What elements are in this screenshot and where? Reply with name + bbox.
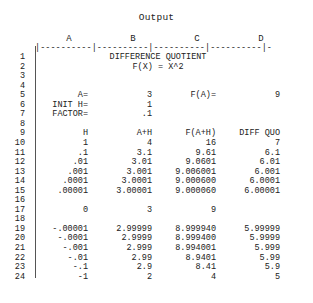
cell-d[interactable]: 6.00001 xyxy=(244,186,280,196)
row-number: 8 xyxy=(20,119,25,129)
row-number: 14 xyxy=(15,176,25,186)
cell-b[interactable]: 3.0001 xyxy=(121,176,152,186)
row-number: 24 xyxy=(15,272,25,282)
cell-c[interactable]: F(A)= xyxy=(190,90,216,100)
cell-d[interactable]: 6.01 xyxy=(260,157,280,167)
cell-b[interactable]: 3.001 xyxy=(126,167,152,177)
row-number: 13 xyxy=(15,167,25,177)
row-number: 22 xyxy=(15,253,25,263)
cell-c[interactable]: 9.0601 xyxy=(185,157,216,167)
cell-b[interactable]: 3.01 xyxy=(132,157,152,167)
cell-c[interactable]: 8.9401 xyxy=(185,253,216,263)
row-number: 19 xyxy=(15,224,25,234)
cell-c[interactable]: 9.000060 xyxy=(175,186,216,196)
table-row: 24-1245 xyxy=(0,272,313,282)
cell-b[interactable]: 2.999 xyxy=(126,243,152,253)
cell-d[interactable]: 5.99999 xyxy=(244,224,280,234)
table-row: 22-.012.998.94015.99 xyxy=(0,253,313,263)
cell-a[interactable]: -.1 xyxy=(73,262,88,272)
cell-b[interactable]: 2.99999 xyxy=(116,224,152,234)
cell-b[interactable]: 2.9 xyxy=(137,262,152,272)
table-row: 11.13.19.616.1 xyxy=(0,148,313,158)
cell-c[interactable]: 16 xyxy=(206,138,216,148)
cell-c[interactable]: 8.999940 xyxy=(175,224,216,234)
table-row: 1014167 xyxy=(0,138,313,148)
table-row: 4 xyxy=(0,81,313,91)
cell-d[interactable]: 7 xyxy=(275,138,280,148)
cell-d[interactable]: DIFF QUO xyxy=(239,128,280,138)
row-number: 20 xyxy=(15,233,25,243)
table-row: 6INIT H=1 xyxy=(0,100,313,110)
cell-d[interactable]: 6.1 xyxy=(265,148,280,158)
cell-a[interactable]: -.001 xyxy=(62,243,88,253)
cell-c[interactable]: 9.000600 xyxy=(175,176,216,186)
cell-c[interactable]: 8.999400 xyxy=(175,233,216,243)
row-number: 17 xyxy=(15,205,25,215)
cell-a[interactable]: .00001 xyxy=(57,186,88,196)
cell-a[interactable]: FACTOR= xyxy=(52,109,88,119)
cell-a[interactable]: .01 xyxy=(73,157,88,167)
row-number: 16 xyxy=(15,195,25,205)
cell-a[interactable]: -.0001 xyxy=(57,233,88,243)
row-number: 23 xyxy=(15,262,25,272)
table-row: 1DIFFERENCE QUOTIENT xyxy=(0,52,313,62)
cell-b[interactable]: 3.1 xyxy=(137,148,152,158)
table-row: 20-.00012.99998.9994005.9999 xyxy=(0,233,313,243)
row-number: 21 xyxy=(15,243,25,253)
cell-c[interactable]: 8.994001 xyxy=(175,243,216,253)
table-row: 5A=3F(A)=9 xyxy=(0,90,313,100)
table-row: 17039 xyxy=(0,205,313,215)
cell-a[interactable]: A= xyxy=(78,90,88,100)
cell-a[interactable]: 1 xyxy=(83,138,88,148)
merged-heading-cell[interactable]: DIFFERENCE QUOTIENT xyxy=(36,52,280,62)
cell-a[interactable]: .1 xyxy=(78,148,88,158)
row-number: 11 xyxy=(15,148,25,158)
cell-d[interactable]: 5.99 xyxy=(260,253,280,263)
row-number: 4 xyxy=(20,81,25,91)
table-row: 14.00013.00019.0006006.0001 xyxy=(0,176,313,186)
page-title: Output xyxy=(0,12,313,23)
cell-d[interactable]: 5 xyxy=(275,272,280,282)
cell-b[interactable]: 1 xyxy=(147,100,152,110)
table-row: 21-.0012.9998.9940015.999 xyxy=(0,243,313,253)
table-row: 7FACTOR=.1 xyxy=(0,109,313,119)
table-row: 8 xyxy=(0,119,313,129)
cell-d[interactable]: 5.9 xyxy=(265,262,280,272)
table-row: 18 xyxy=(0,214,313,224)
row-number: 10 xyxy=(15,138,25,148)
cell-c[interactable]: 9 xyxy=(211,205,216,215)
cell-c[interactable]: 4 xyxy=(211,272,216,282)
cell-d[interactable]: 9 xyxy=(275,90,280,100)
cell-a[interactable]: .0001 xyxy=(62,176,88,186)
row-number: 3 xyxy=(20,71,25,81)
cell-a[interactable]: INIT H= xyxy=(52,100,88,110)
merged-heading-cell[interactable]: F(X) = X^2 xyxy=(36,62,280,72)
cell-b[interactable]: 3 xyxy=(147,205,152,215)
cell-a[interactable]: -.01 xyxy=(68,253,88,263)
cell-c[interactable]: 9.61 xyxy=(196,148,216,158)
cell-b[interactable]: 2 xyxy=(147,272,152,282)
row-number: 6 xyxy=(20,100,25,110)
cell-c[interactable]: 8.41 xyxy=(196,262,216,272)
cell-b[interactable]: 2.9999 xyxy=(121,233,152,243)
cell-b[interactable]: 3.00001 xyxy=(116,186,152,196)
row-number: 18 xyxy=(15,214,25,224)
cell-b[interactable]: 2.99 xyxy=(132,253,152,263)
cell-d[interactable]: 5.9999 xyxy=(249,233,280,243)
cell-a[interactable]: -.00001 xyxy=(52,224,88,234)
cell-a[interactable]: .001 xyxy=(68,167,88,177)
cell-d[interactable]: 5.999 xyxy=(254,243,280,253)
cell-a[interactable]: H xyxy=(83,128,88,138)
row-number: 15 xyxy=(15,186,25,196)
cell-d[interactable]: 6.0001 xyxy=(249,176,280,186)
cell-a[interactable]: -1 xyxy=(78,272,88,282)
cell-d[interactable]: 6.001 xyxy=(254,167,280,177)
cell-c[interactable]: F(A+H) xyxy=(185,128,216,138)
cell-b[interactable]: 4 xyxy=(147,138,152,148)
cell-a[interactable]: 0 xyxy=(83,205,88,215)
cell-b[interactable]: A+H xyxy=(137,128,152,138)
cell-b[interactable]: 3 xyxy=(147,90,152,100)
cell-c[interactable]: 9.006001 xyxy=(175,167,216,177)
row-number: 2 xyxy=(20,62,25,72)
cell-b[interactable]: .1 xyxy=(142,109,152,119)
